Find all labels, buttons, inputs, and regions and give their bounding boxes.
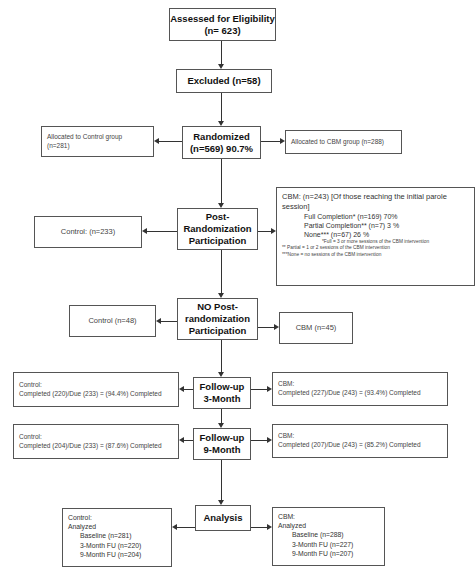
- allocated-control-box: Allocated to Control group (n=281): [41, 126, 154, 157]
- connector-nopost-control: [161, 321, 177, 322]
- arrow-right-icon: [267, 386, 272, 392]
- analysis-box: Analysis: [195, 505, 251, 531]
- followup-3-cbm-completion: Completed (227)/Due (243) = (93.4%) Comp…: [278, 389, 442, 398]
- arrow-right-icon: [267, 524, 272, 530]
- assessed-title: Assessed for Eligibility: [170, 13, 275, 25]
- no-post-line3: Participation: [189, 325, 247, 337]
- connector-nopost-cbm: [258, 327, 274, 328]
- analysis-cbm-analyzed: Analyzed: [278, 521, 379, 530]
- connector-fu3-control: [184, 389, 193, 390]
- excluded-label: Excluded (n=58): [187, 75, 260, 87]
- connector-fu3-fu9: [221, 409, 222, 423]
- connector-randomized-post: [221, 159, 222, 203]
- arrow-right-icon: [280, 138, 285, 144]
- followup-3-cbm-group: CBM:: [278, 380, 442, 389]
- post-control-box: Control: (n=233): [34, 216, 142, 248]
- post-cbm-none: None*** (n=67) 26 %: [282, 230, 469, 239]
- arrow-right-icon: [271, 228, 276, 234]
- arrow-left-icon: [179, 386, 184, 392]
- arrow-down-icon: [218, 372, 224, 377]
- followup-3-control-group: Control:: [19, 381, 173, 390]
- followup-9-cbm-completion: Completed (207)/Due (243) = (85.2%) Comp…: [278, 441, 442, 450]
- analysis-control-box: Control: Analyzed Baseline (n=281) 3-Mon…: [62, 508, 172, 567]
- followup-3-line1: Follow-up: [200, 381, 245, 393]
- arrow-down-icon: [218, 500, 224, 505]
- followup-3-control-completion: Completed (220)/Due (233) = (94.4%) Comp…: [19, 390, 173, 399]
- followup-3-control-box: Control: Completed (220)/Due (233) = (94…: [13, 372, 179, 407]
- arrow-left-icon: [156, 318, 161, 324]
- no-post-randomization-box: NO Post- randomization Participation: [177, 298, 258, 340]
- connector-excluded-randomized: [221, 93, 222, 121]
- followup-9-cbm-group: CBM:: [278, 432, 442, 441]
- connector-randomized-cbm: [261, 141, 280, 142]
- connector-fu9-analysis: [221, 460, 222, 500]
- arrow-down-icon: [218, 203, 224, 208]
- no-post-line2: randomization: [185, 313, 250, 325]
- arrow-left-icon: [179, 437, 184, 443]
- post-randomization-line2: Randomization: [183, 223, 251, 235]
- followup-9-cbm-box: CBM: Completed (207)/Due (243) = (85.2%)…: [272, 424, 448, 458]
- post-control-label: Control: (n=233): [61, 227, 115, 237]
- post-randomization-line1: Post-: [206, 211, 230, 223]
- post-cbm-box: CBM: (n=243) [Of those reaching the init…: [276, 187, 475, 286]
- connector-analysis-control: [177, 527, 195, 528]
- analysis-control-baseline: Baseline (n=281): [68, 531, 166, 540]
- arrow-left-icon: [142, 228, 147, 234]
- followup-9-month-box: Follow-up 9-Month: [193, 428, 251, 460]
- arrow-down-icon: [218, 293, 224, 298]
- connector-analysis-cbm: [251, 527, 267, 528]
- analysis-control-group: Control:: [68, 513, 166, 522]
- analysis-cbm-3month: 3-Month FU (n=227): [278, 540, 379, 549]
- no-post-line1: NO Post-: [197, 301, 238, 313]
- connector-fu3-cbm: [251, 389, 267, 390]
- arrow-right-icon: [267, 437, 272, 443]
- connector-fu9-control: [184, 440, 193, 441]
- arrow-down-icon: [218, 121, 224, 126]
- analysis-control-analyzed: Analyzed: [68, 522, 166, 531]
- followup-3-cbm-box: CBM: Completed (227)/Due (243) = (93.4%)…: [272, 372, 448, 406]
- randomized-box: Randomized (n=569) 90.7%: [182, 126, 261, 159]
- connector-assessed-excluded: [221, 41, 222, 64]
- followup-3-line2: 3-Month: [204, 393, 241, 405]
- allocated-control-count: (n=281): [47, 142, 148, 151]
- arrow-left-icon: [154, 138, 159, 144]
- allocated-cbm-box: Allocated to CBM group (n=288): [285, 130, 402, 154]
- post-randomization-box: Post- Randomization Participation: [177, 208, 258, 250]
- excluded-box: Excluded (n=58): [176, 69, 272, 93]
- connector-fu9-cbm: [251, 440, 267, 441]
- post-cbm-partial: Partial Completion** (n=7) 3 %: [282, 221, 469, 230]
- assessed-for-eligibility-box: Assessed for Eligibility (n= 623): [169, 8, 276, 41]
- post-randomization-line3: Participation: [189, 235, 247, 247]
- followup-3-month-box: Follow-up 3-Month: [193, 377, 251, 409]
- analysis-control-3month: 3-Month FU (n=220): [68, 541, 166, 550]
- followup-9-control-box: Control: Completed (204)/Due (233) = (87…: [13, 424, 179, 459]
- connector-post-nopost: [221, 250, 222, 293]
- post-cbm-note-none: ***None = no sessions of the CBM interve…: [282, 252, 469, 259]
- followup-9-line2: 9-Month: [204, 444, 241, 456]
- post-cbm-note-partial: ** Partial = 1 or 2 sessions of the CBM …: [282, 245, 469, 252]
- post-cbm-header: CBM: (n=243) [Of those reaching the init…: [282, 192, 469, 212]
- no-post-control-label: Control (n=48): [88, 316, 136, 326]
- assessed-count: (n= 623): [204, 25, 240, 37]
- arrow-down-icon: [218, 64, 224, 69]
- analysis-label: Analysis: [203, 512, 242, 524]
- connector-nopost-fu3: [221, 340, 222, 372]
- post-cbm-note-full: *Full = 3 or more sessions of the CBM in…: [282, 239, 469, 246]
- arrow-left-icon: [172, 524, 177, 530]
- post-cbm-full: Full Completion* (n=169) 70%: [282, 212, 469, 221]
- no-post-control-box: Control (n=48): [69, 305, 156, 337]
- analysis-cbm-baseline: Baseline (n=288): [278, 530, 379, 539]
- no-post-cbm-box: CBM (n=45): [279, 312, 353, 344]
- allocated-control-label: Allocated to Control group: [47, 133, 148, 142]
- allocated-cbm-label: Allocated to CBM group (n=288): [291, 138, 396, 147]
- connector-randomized-control: [159, 141, 182, 142]
- followup-9-control-completion: Completed (204)/Due (233) = (87.6%) Comp…: [19, 442, 173, 451]
- randomized-title: Randomized: [193, 131, 249, 143]
- no-post-cbm-label: CBM (n=45): [296, 323, 337, 333]
- analysis-control-9month: 9-Month FU (n=204): [68, 550, 166, 559]
- followup-9-control-group: Control:: [19, 433, 173, 442]
- analysis-cbm-box: CBM: Analyzed Baseline (n=288) 3-Month F…: [272, 507, 385, 566]
- arrow-right-icon: [274, 324, 279, 330]
- analysis-cbm-group: CBM:: [278, 512, 379, 521]
- randomized-count: (n=569) 90.7%: [190, 143, 253, 155]
